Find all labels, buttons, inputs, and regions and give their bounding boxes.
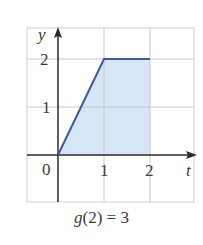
- x-tick-2: 2: [145, 161, 154, 180]
- y-tick-2: 2: [40, 50, 49, 69]
- y-axis-label: y: [36, 25, 46, 44]
- y-tick-1: 1: [42, 98, 51, 117]
- plot-area: y 2 1 0 1 2 t: [0, 0, 203, 205]
- x-tick-1: 1: [100, 161, 109, 180]
- caption: g(2) = 3: [0, 208, 203, 228]
- caption-rest: (2) = 3: [83, 208, 129, 227]
- origin-label: 0: [42, 160, 51, 179]
- caption-func: g: [74, 208, 83, 227]
